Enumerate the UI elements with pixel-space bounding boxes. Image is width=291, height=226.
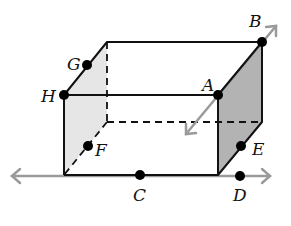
- point-f: [83, 141, 93, 151]
- point-g: [82, 60, 92, 70]
- label-b: B: [248, 11, 262, 31]
- label-e: E: [251, 139, 265, 159]
- point-h: [59, 90, 69, 100]
- point-d: [235, 171, 245, 181]
- point-c: [135, 170, 145, 180]
- label-g: G: [67, 54, 81, 74]
- point-b: [257, 37, 267, 47]
- label-a: A: [200, 75, 214, 95]
- label-c: C: [133, 185, 146, 205]
- label-h: H: [40, 86, 57, 106]
- label-f: F: [94, 140, 108, 160]
- label-d: D: [232, 185, 247, 205]
- point-e: [236, 141, 246, 151]
- point-a: [213, 90, 223, 100]
- prism-diagram: A B C D E F G H: [0, 0, 291, 226]
